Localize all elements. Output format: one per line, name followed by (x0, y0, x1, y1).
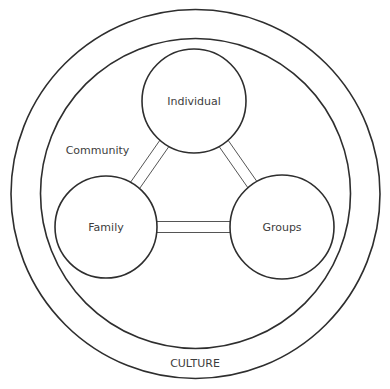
label-community: Community (66, 144, 130, 157)
label-family: Family (88, 221, 124, 234)
link-individual-groups (217, 144, 250, 191)
link-individual-groups (226, 137, 259, 184)
link-individual-family (137, 144, 171, 192)
ecological-model-diagram: Individual Family Groups Community CULTU… (0, 0, 390, 389)
link-individual-family (128, 137, 162, 185)
label-groups: Groups (262, 221, 301, 234)
label-individual: Individual (167, 95, 221, 108)
label-culture: CULTURE (170, 357, 220, 370)
